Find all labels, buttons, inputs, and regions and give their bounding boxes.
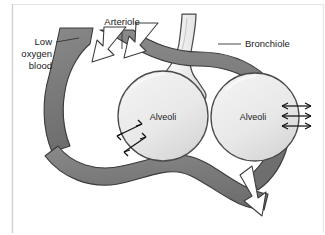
- label-low-oxygen-blood-line2: oxygen: [21, 48, 52, 59]
- label-bronchiole: Bronchiole: [245, 38, 290, 49]
- label-low-oxygen-blood-line1: Low: [35, 36, 53, 47]
- label-low-oxygen-blood-line3: blood: [29, 60, 52, 71]
- label-alveoli-left: Alveoli: [150, 112, 177, 122]
- label-arteriole: Arteriole: [104, 16, 139, 27]
- alveoli-gas-exchange-diagram: Arteriole Bronchiole Low oxygen blood Al…: [0, 0, 325, 235]
- diagram-canvas: Arteriole Bronchiole Low oxygen blood Al…: [0, 0, 325, 235]
- label-alveoli-right: Alveoli: [240, 112, 267, 122]
